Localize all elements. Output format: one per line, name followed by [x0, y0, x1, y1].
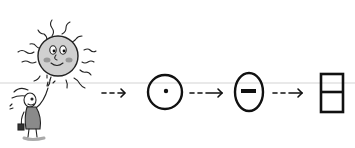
split-rectangle-symbol-icon: [321, 74, 343, 112]
oval-bar-symbol-icon: [235, 73, 263, 111]
sun-to-symbol-diagram: Sketch diagram: a cartoon sun and a smal…: [0, 0, 355, 148]
dashed-arrow-2: [190, 89, 222, 97]
dashed-arrow-1: [102, 89, 125, 97]
dashed-arrow-3: [273, 89, 302, 97]
sun-icon: [18, 20, 96, 88]
diagram-canvas: [0, 0, 355, 148]
circle-dot-symbol-icon: [148, 75, 182, 109]
rabbit-figure-icon: [10, 75, 55, 140]
